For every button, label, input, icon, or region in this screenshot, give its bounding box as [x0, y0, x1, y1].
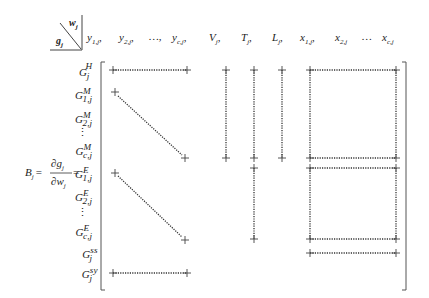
right-bracket — [402, 62, 406, 290]
left-bracket — [101, 62, 105, 290]
sparsity-pattern — [0, 0, 429, 298]
